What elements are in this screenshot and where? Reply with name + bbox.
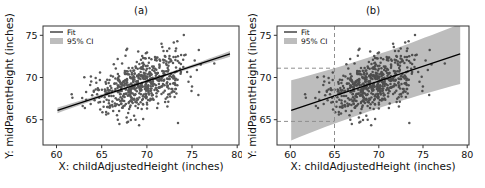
legend-fit-label: Fit xyxy=(67,28,76,37)
panel-b: (b) Y: midParentHeight (inches) 60657075… xyxy=(243,0,485,188)
y-axis-ticks: 657075 xyxy=(25,30,43,125)
y-tick-label: 65 xyxy=(259,114,271,125)
panel-a: (a) Y: midParentHeight (inches) 60657075… xyxy=(0,0,242,188)
x-tick-label: 75 xyxy=(186,149,198,160)
panel-a-x-axis-label: X: childAdjustedHeight (inches) xyxy=(43,160,239,172)
legend-fit-label: Fit xyxy=(301,28,310,37)
plot-area xyxy=(58,34,231,127)
x-axis-ticks: 6065707580 xyxy=(284,145,473,160)
y-tick-label: 75 xyxy=(25,30,37,41)
legend: Fit95% CI xyxy=(284,28,328,47)
x-tick-label: 60 xyxy=(50,149,62,160)
x-tick-label: 65 xyxy=(96,149,108,160)
legend-ci-swatch xyxy=(50,38,63,44)
y-tick-label: 65 xyxy=(25,114,37,125)
regression-ci-figure: (a) Y: midParentHeight (inches) 60657075… xyxy=(0,0,485,188)
y-axis-ticks: 657075 xyxy=(259,30,277,125)
x-tick-label: 80 xyxy=(231,149,242,160)
x-tick-label: 65 xyxy=(328,149,340,160)
panel-b-x-axis-label: X: childAdjustedHeight (inches) xyxy=(277,160,469,172)
legend-ci-label: 95% CI xyxy=(67,37,94,46)
x-tick-label: 80 xyxy=(461,149,473,160)
y-tick-label: 70 xyxy=(25,72,37,83)
y-tick-label: 75 xyxy=(259,30,271,41)
legend: Fit95% CI xyxy=(50,28,94,47)
x-tick-label: 60 xyxy=(284,149,296,160)
scatter-points xyxy=(70,34,215,127)
legend-ci-swatch xyxy=(284,38,297,44)
x-tick-label: 70 xyxy=(141,149,153,160)
legend-ci-label: 95% CI xyxy=(301,37,328,46)
x-tick-label: 75 xyxy=(417,149,429,160)
y-tick-label: 70 xyxy=(259,72,271,83)
x-axis-ticks: 6065707580 xyxy=(50,145,242,160)
x-tick-label: 70 xyxy=(373,149,385,160)
